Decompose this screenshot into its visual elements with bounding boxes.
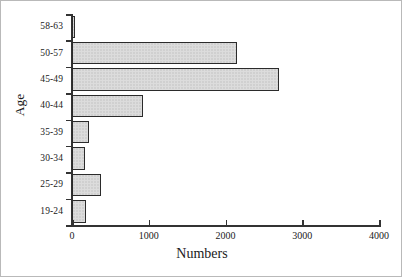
y-axis-tick xyxy=(66,93,72,95)
x-axis-tick xyxy=(72,220,74,227)
bar-band xyxy=(72,172,379,198)
y-axis-tick-label: 40-44 xyxy=(3,100,63,110)
x-axis-tick-label: 2000 xyxy=(196,230,256,241)
x-axis-title: Numbers xyxy=(1,246,402,262)
bar[interactable] xyxy=(72,16,75,38)
x-axis-tick-label: 3000 xyxy=(272,230,332,241)
bar-band xyxy=(72,40,379,66)
bar-band xyxy=(72,14,379,40)
bar[interactable] xyxy=(72,68,279,90)
bar-chart-figure: Age Numbers 58-6350-5745-4940-4435-3930-… xyxy=(0,0,402,277)
y-axis-tick-label: 30-34 xyxy=(3,153,63,163)
bar[interactable] xyxy=(72,147,85,169)
bar-band xyxy=(72,146,379,172)
x-axis-tick-label: 4000 xyxy=(349,230,402,241)
bar[interactable] xyxy=(72,42,237,64)
y-axis-tick-label: 19-24 xyxy=(3,206,63,216)
x-axis-tick xyxy=(302,220,304,227)
bar-band xyxy=(72,120,379,146)
y-axis-tick-label: 25-29 xyxy=(3,179,63,189)
y-axis-tick xyxy=(66,40,72,42)
bar[interactable] xyxy=(72,174,101,196)
plot-area xyxy=(72,14,379,225)
y-axis-tick xyxy=(66,146,72,148)
x-axis-tick-label: 1000 xyxy=(119,230,179,241)
x-axis-tick xyxy=(226,220,228,227)
y-axis-tick-label: 35-39 xyxy=(3,127,63,137)
bar[interactable] xyxy=(72,95,143,117)
y-axis-tick-label: 50-57 xyxy=(3,48,63,58)
bar[interactable] xyxy=(72,200,86,222)
bar-band xyxy=(72,93,379,119)
bar-band xyxy=(72,67,379,93)
y-axis-tick xyxy=(66,120,72,122)
y-axis-tick xyxy=(66,172,72,174)
y-axis-tick-label: 45-49 xyxy=(3,74,63,84)
bar[interactable] xyxy=(72,121,89,143)
y-axis-tick-label: 58-63 xyxy=(3,21,63,31)
x-axis-tick xyxy=(379,220,381,227)
y-axis-tick xyxy=(66,67,72,69)
y-axis-tick xyxy=(66,199,72,201)
y-axis-tick xyxy=(66,14,72,16)
x-axis-tick xyxy=(149,220,151,227)
x-axis-tick-label: 0 xyxy=(42,230,102,241)
